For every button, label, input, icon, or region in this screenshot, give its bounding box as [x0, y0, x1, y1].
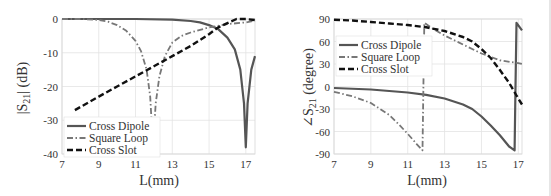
magnitude-x-label: L(mm) [139, 173, 179, 189]
x-tick-label: 9 [96, 158, 102, 170]
x-tick-label: 17 [240, 158, 252, 170]
y-tick-label: -60 [315, 126, 330, 138]
y-tick-label: -40 [43, 148, 58, 160]
series-cross-slot [75, 19, 255, 110]
x-tick-label: 13 [439, 158, 451, 170]
x-tick-label: 7 [59, 158, 65, 170]
phase-x-label: L(mm) [407, 173, 447, 189]
magnitude-y-label-rest: | (dB) [15, 61, 31, 93]
x-tick-label: 7 [331, 158, 337, 170]
phase-chart: 79111315179060300-30-60-90 L(mm) ∠S21 (d… [301, 13, 524, 189]
magnitude-y-label-sub: 21 [21, 94, 32, 104]
x-tick-label: 9 [368, 158, 374, 170]
magnitude-chart: 79111315170-10-20-30-40 L(mm) |S21| (dB)… [15, 13, 255, 189]
legend-label: Cross Slot [89, 144, 137, 156]
magnitude-y-label: |S21| (dB) [15, 61, 32, 114]
phase-y-label-rest: (degree) [301, 48, 317, 98]
phase-legend: Cross DipoleSquare LoopCross Slot [336, 36, 432, 76]
y-tick-label: 0 [53, 13, 59, 25]
y-tick-label: 0 [325, 81, 331, 93]
magnitude-legend: Cross DipoleSquare LoopCross Slot [64, 117, 160, 157]
x-tick-label: 11 [402, 158, 413, 170]
x-tick-label: 15 [476, 158, 488, 170]
phase-y-label-main: ∠S [301, 108, 316, 128]
y-tick-label: -30 [43, 114, 58, 126]
x-tick-label: 11 [130, 158, 141, 170]
phase-y-label: ∠S21 (degree) [301, 48, 318, 128]
phase-y-label-sub: 21 [307, 98, 318, 108]
y-tick-label: 30 [319, 58, 331, 70]
y-tick-label: 60 [319, 36, 331, 48]
y-tick-label: -90 [315, 148, 330, 160]
x-tick-label: 13 [167, 158, 179, 170]
x-tick-label: 17 [513, 158, 525, 170]
y-tick-label: -10 [43, 47, 58, 59]
legend-label: Cross Slot [361, 63, 409, 75]
y-tick-label: 90 [319, 13, 331, 25]
y-tick-label: -20 [43, 81, 58, 93]
x-tick-label: 15 [204, 158, 216, 170]
magnitude-y-label-main: |S [15, 104, 30, 115]
figure: 79111315170-10-20-30-40 L(mm) |S21| (dB)… [0, 0, 551, 196]
